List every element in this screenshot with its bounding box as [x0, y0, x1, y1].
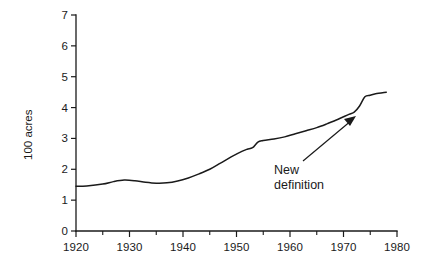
- x-tick-label: 1960: [277, 241, 303, 253]
- y-tick-label: 5: [50, 71, 68, 83]
- y-tick-label: 3: [50, 132, 68, 144]
- annotation-line-2: definition: [274, 178, 324, 193]
- y-tick-label: 7: [50, 9, 68, 21]
- annotation-line-1: New: [274, 163, 324, 178]
- y-tick-label: 2: [50, 163, 68, 175]
- x-tick-label: 1940: [170, 241, 196, 253]
- x-axis: [76, 231, 397, 237]
- y-axis: [71, 15, 76, 231]
- annotation-new-definition: New definition: [274, 163, 324, 193]
- y-tick-marks: [71, 15, 76, 231]
- y-tick-label: 4: [50, 102, 68, 114]
- x-tick-label: 1930: [117, 241, 143, 253]
- y-tick-label: 6: [50, 40, 68, 52]
- line-chart: 100 acres 1920193019401950196019701980 0…: [0, 0, 427, 273]
- x-tick-label: 1920: [63, 241, 89, 253]
- y-tick-label: 1: [50, 194, 68, 206]
- x-tick-label: 1980: [384, 241, 410, 253]
- data-series-line: [76, 92, 386, 186]
- y-axis-title: 100 acres: [22, 109, 34, 160]
- x-tick-label: 1950: [224, 241, 250, 253]
- y-tick-label: 0: [50, 225, 68, 237]
- x-tick-label: 1970: [331, 241, 357, 253]
- x-tick-marks: [76, 231, 397, 237]
